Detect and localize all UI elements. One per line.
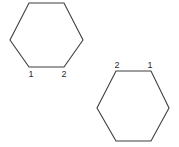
hexagon-top-left [10,3,83,67]
hexagon-bottom-right-label-2: 2 [114,60,119,70]
hexagon-bottom-right-label-1: 1 [147,60,152,70]
hexagon-figure: 1 2 2 1 [0,0,179,147]
hexagon-bottom-right [97,71,169,141]
figure-canvas: 1 2 2 1 [0,0,179,147]
hexagon-top-left-label-1: 1 [28,69,33,79]
hexagon-top-left-label-2: 2 [61,69,66,79]
